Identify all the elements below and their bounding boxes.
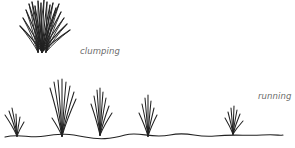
- running-grass-tuft-icon: [50, 79, 76, 136]
- growth-habit-illustration: clumping running: [0, 0, 295, 148]
- clumping-grass-icon: [20, 0, 70, 52]
- running-grass-tuft-icon: [91, 88, 112, 135]
- running-grass-tuft-icon: [5, 108, 24, 136]
- running-grass-tuft-icon: [139, 95, 157, 136]
- running-grass-tuft-icon: [225, 106, 243, 134]
- clumping-label: clumping: [80, 46, 120, 56]
- grass-growth-diagram: [0, 0, 295, 148]
- running-label: running: [258, 91, 292, 101]
- ground-rhizome-line: [5, 134, 283, 139]
